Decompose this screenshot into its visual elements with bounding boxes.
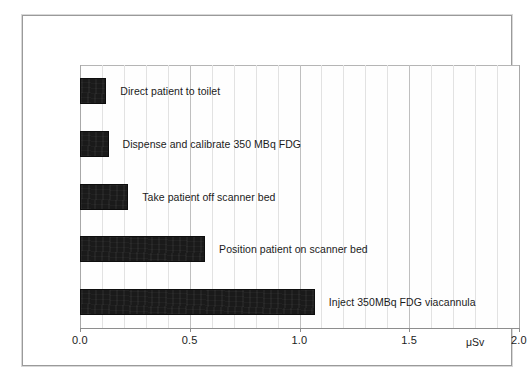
bar <box>80 78 106 104</box>
bar-label: Direct patient to toilet <box>120 85 220 97</box>
axis-tick-label: 0.5 <box>182 334 198 346</box>
bar-label: Position patient on scanner bed <box>219 243 368 255</box>
bar <box>80 131 109 157</box>
bar-row: Take patient off scanner bed <box>80 184 519 210</box>
axis-tick-label: 2.0 <box>511 334 527 346</box>
bar-label: Dispense and calibrate 350 MBq FDG <box>123 138 302 150</box>
x-axis-unit-label: μSv <box>466 336 484 348</box>
axis-tick <box>409 328 410 332</box>
axis-tick-label: 0.0 <box>72 334 88 346</box>
axis-tick <box>80 328 81 332</box>
gridline <box>519 65 520 328</box>
bar-row: Dispense and calibrate 350 MBq FDG <box>80 131 519 157</box>
figure-frame: Direct patient to toiletDispense and cal… <box>22 15 512 366</box>
bar-label: Inject 350MBq FDG viacannula <box>329 296 476 308</box>
bar-row: Position patient on scanner bed <box>80 236 519 262</box>
bar-row: Direct patient to toilet <box>80 78 519 104</box>
plot-area: Direct patient to toiletDispense and cal… <box>80 65 519 328</box>
axis-tick <box>190 328 191 332</box>
bar <box>80 184 128 210</box>
axis-tick-label: 1.0 <box>292 334 308 346</box>
bar <box>80 236 205 262</box>
bar <box>80 289 315 315</box>
axis-tick <box>300 328 301 332</box>
bar-row: Inject 350MBq FDG viacannula <box>80 289 519 315</box>
axis-tick <box>519 328 520 332</box>
axis-tick-label: 1.5 <box>401 334 417 346</box>
bar-label: Take patient off scanner bed <box>142 191 275 203</box>
